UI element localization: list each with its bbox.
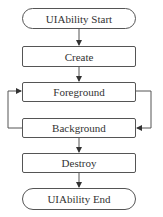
edge-background-foreground	[8, 91, 22, 128]
node-create: Create	[22, 46, 136, 67]
node-label: UIAbility End	[47, 193, 110, 205]
node-label: Destroy	[62, 157, 97, 169]
edge-foreground-background	[136, 91, 151, 128]
node-foreground: Foreground	[22, 82, 136, 102]
edges-layer	[0, 0, 163, 217]
node-background: Background	[22, 118, 136, 138]
node-start: UIAbility Start	[22, 8, 136, 29]
node-label: Create	[65, 51, 94, 63]
node-label: Foreground	[53, 86, 104, 98]
node-destroy: Destroy	[22, 153, 136, 173]
node-end: UIAbility End	[22, 188, 136, 210]
node-label: Background	[52, 122, 106, 134]
node-label: UIAbility Start	[46, 13, 112, 25]
